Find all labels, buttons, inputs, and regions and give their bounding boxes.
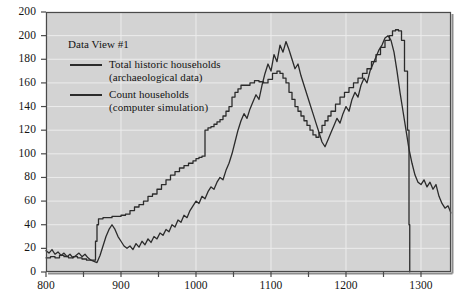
y-axis-tick-label: 20 <box>6 241 36 253</box>
x-axis-tick-label: 1100 <box>248 279 294 291</box>
x-axis-tick-label: 900 <box>98 279 144 291</box>
y-axis-tick-label: 200 <box>6 29 36 41</box>
y-axis-tick-label: 120 <box>6 123 36 135</box>
y-axis-tick-label: 80 <box>6 170 36 182</box>
y-axis-tick-label: 180 <box>6 52 36 64</box>
x-axis-tick-label: 1000 <box>173 279 219 291</box>
plot-background <box>46 12 451 272</box>
y-axis-tick-label: 140 <box>6 100 36 112</box>
y-axis-tick-label: 200 <box>6 5 36 17</box>
x-axis-tick-label: 800 <box>23 279 69 291</box>
y-axis-tick-label: 40 <box>6 218 36 230</box>
y-axis-tick-label: 160 <box>6 76 36 88</box>
legend-title: Data View #1 <box>68 38 129 50</box>
legend-label-secondary: (archaeological data) <box>109 71 203 83</box>
y-axis-tick-label: 0 <box>6 265 36 277</box>
y-axis-tick-label: 60 <box>6 194 36 206</box>
legend-label-primary: Total historic households <box>109 58 221 70</box>
x-axis-tick-label: 1200 <box>323 279 369 291</box>
x-axis-tick-label: 1300 <box>398 279 444 291</box>
legend-label-primary: Count households <box>109 88 189 100</box>
legend-label-secondary: (computer simulation) <box>109 101 208 113</box>
chart-figure: 0204060801001201401601802002008009001000… <box>0 0 471 302</box>
y-axis-tick-label: 100 <box>6 147 36 159</box>
